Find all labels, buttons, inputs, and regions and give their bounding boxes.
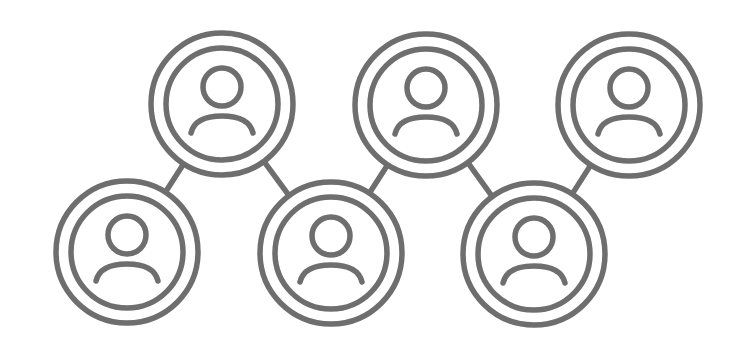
connection-line [468,162,493,196]
user-node [558,34,700,176]
user-node [463,183,605,325]
user-node [260,182,402,324]
connection-line [572,165,591,194]
network-diagram-svg [0,0,741,351]
connection-line [165,164,183,193]
user-node [355,34,497,176]
user-node [56,181,198,323]
user-node [151,33,293,175]
connection-line [369,165,387,194]
network-diagram [0,0,741,351]
connection-line [264,161,289,195]
